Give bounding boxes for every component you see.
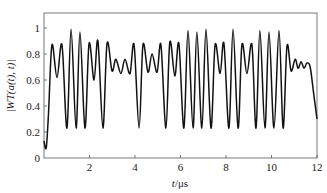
x-tick-label: 10 (266, 161, 278, 173)
x-tick-label: 12 (312, 161, 323, 173)
x-tick-label: 6 (178, 161, 184, 173)
y-tick-label: 0.6 (26, 74, 40, 86)
x-axis-label-unit: /μs (175, 177, 188, 189)
data-line (44, 29, 317, 149)
x-tick-label: 4 (132, 161, 138, 173)
x-tick-label: 2 (87, 161, 93, 173)
x-axis-label: t/μs (172, 177, 188, 189)
y-tick-label: 1 (35, 22, 41, 34)
y-tick-label: 0.8 (26, 48, 40, 60)
y-tick-label: 0.4 (26, 100, 40, 112)
x-tick-label: 8 (223, 161, 229, 173)
y-tick-label: 0 (35, 152, 41, 164)
y-axis-label: |WT(a(t), t)| (4, 59, 17, 112)
y-tick-label: 0.2 (26, 126, 40, 138)
wavelet-magnitude-chart: 24681012 00.20.40.60.81 |WT(a(t), t)| t/… (0, 0, 327, 193)
